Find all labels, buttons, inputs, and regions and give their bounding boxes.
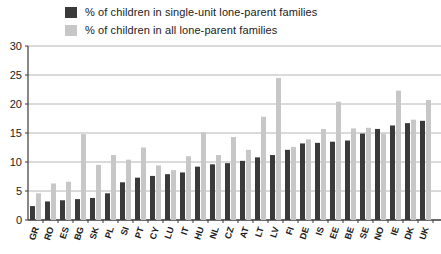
bar-single-unit-PL bbox=[105, 193, 110, 220]
x-axis-label-BE: BE bbox=[343, 226, 356, 241]
bar-all-PT bbox=[141, 148, 146, 221]
bar-all-SI bbox=[126, 160, 131, 220]
bar-single-unit-EE bbox=[330, 142, 335, 220]
x-axis-label-RO: RO bbox=[42, 226, 56, 242]
bar-all-AT bbox=[246, 150, 251, 220]
bar-single-unit-LU bbox=[165, 174, 170, 220]
x-axis-label-DK: DK bbox=[402, 225, 416, 241]
y-axis-label-20: 20 bbox=[10, 98, 22, 110]
legend-item-single-unit: % of children in single-unit lone-parent… bbox=[65, 5, 317, 19]
x-axis-label-SE: SE bbox=[358, 226, 371, 241]
bar-single-unit-RO bbox=[45, 201, 50, 220]
x-axis-label-IS: IS bbox=[314, 226, 326, 237]
bar-all-NO bbox=[381, 134, 386, 220]
bar-single-unit-ES bbox=[60, 200, 65, 220]
y-axis-label-0: 0 bbox=[16, 214, 22, 226]
legend-label-single-unit: % of children in single-unit lone-parent… bbox=[85, 6, 317, 18]
bar-all-SE bbox=[366, 128, 371, 220]
x-axis-label-NL: NL bbox=[208, 225, 221, 240]
bar-single-unit-CY bbox=[150, 176, 155, 220]
bar-single-unit-DE bbox=[300, 143, 305, 220]
bar-single-unit-IS bbox=[315, 143, 320, 220]
bar-all-SK bbox=[96, 165, 101, 220]
x-axis-label-LT: LT bbox=[253, 225, 266, 238]
y-axis-label-5: 5 bbox=[16, 185, 22, 197]
bar-single-unit-GR bbox=[30, 206, 35, 220]
x-axis-label-DE: DE bbox=[298, 226, 311, 241]
x-axis-label-CZ: CZ bbox=[223, 225, 236, 240]
bar-all-DK bbox=[411, 120, 416, 220]
y-axis-label-10: 10 bbox=[10, 156, 22, 168]
bar-all-GR bbox=[36, 193, 41, 220]
bar-single-unit-CZ bbox=[225, 163, 230, 220]
x-axis-label-GR: GR bbox=[27, 225, 41, 241]
bar-all-IT bbox=[186, 156, 191, 220]
bar-single-unit-IT bbox=[180, 172, 185, 220]
chart-figure: % of children in single-unit lone-parent… bbox=[0, 0, 441, 254]
legend-label-all: % of children in all lone-parent familie… bbox=[85, 24, 277, 36]
x-axis-label-PL: PL bbox=[103, 225, 116, 240]
bar-all-BE bbox=[351, 128, 356, 220]
bar-single-unit-PT bbox=[135, 178, 140, 220]
x-axis-label-HU: HU bbox=[192, 226, 206, 241]
bar-all-HU bbox=[201, 132, 206, 220]
bar-single-unit-AT bbox=[240, 161, 245, 220]
x-axis-label-AT: AT bbox=[238, 225, 251, 239]
bar-all-CY bbox=[156, 165, 161, 220]
bar-all-RO bbox=[51, 183, 56, 220]
bar-all-LV bbox=[276, 78, 281, 220]
bar-all-LU bbox=[171, 170, 176, 220]
bar-single-unit-IE bbox=[390, 125, 395, 220]
x-axis-label-CY: CY bbox=[148, 226, 161, 241]
bar-single-unit-SI bbox=[120, 182, 125, 220]
y-axis-label-15: 15 bbox=[10, 127, 22, 139]
chart-legend: % of children in single-unit lone-parent… bbox=[65, 5, 317, 41]
bar-all-LT bbox=[261, 117, 266, 220]
bar-single-unit-SK bbox=[90, 198, 95, 220]
y-axis-label-25: 25 bbox=[10, 69, 22, 81]
bar-all-EE bbox=[336, 102, 341, 220]
bar-all-IE bbox=[396, 91, 401, 220]
x-axis-label-SK: SK bbox=[88, 225, 102, 240]
bar-single-unit-BG bbox=[75, 199, 80, 220]
x-axis-label-LU: LU bbox=[163, 226, 176, 241]
x-axis-label-IE: IE bbox=[389, 226, 401, 237]
legend-item-all: % of children in all lone-parent familie… bbox=[65, 23, 317, 37]
bar-single-unit-LT bbox=[255, 157, 260, 220]
legend-swatch-single-unit-icon bbox=[65, 7, 77, 18]
bar-all-PL bbox=[111, 155, 116, 220]
bar-all-BG bbox=[81, 134, 86, 220]
bar-single-unit-LV bbox=[270, 155, 275, 220]
x-axis-label-FI: FI bbox=[284, 226, 296, 237]
bar-single-unit-UK bbox=[420, 121, 425, 220]
x-axis-label-ES: ES bbox=[58, 226, 71, 241]
bar-single-unit-NO bbox=[375, 129, 380, 220]
x-axis-label-NO: NO bbox=[372, 226, 386, 242]
bar-single-unit-SE bbox=[360, 134, 365, 220]
bar-single-unit-DK bbox=[405, 123, 410, 220]
x-axis-label-PT: PT bbox=[133, 225, 146, 240]
bar-all-NL bbox=[216, 155, 221, 220]
x-axis-label-SI: SI bbox=[119, 226, 131, 237]
bar-all-UK bbox=[426, 100, 431, 220]
x-axis-label-UK: UK bbox=[417, 225, 431, 241]
x-axis-label-BG: BG bbox=[72, 226, 86, 242]
x-axis-label-EE: EE bbox=[328, 226, 341, 241]
legend-swatch-all-icon bbox=[65, 25, 77, 36]
x-axis-label-IT: IT bbox=[179, 225, 191, 236]
bar-single-unit-FI bbox=[285, 150, 290, 220]
bar-all-FI bbox=[291, 147, 296, 220]
bar-all-DE bbox=[306, 139, 311, 220]
bar-single-unit-HU bbox=[195, 167, 200, 220]
bar-single-unit-NL bbox=[210, 164, 215, 220]
bar-all-IS bbox=[321, 129, 326, 220]
bar-all-ES bbox=[66, 182, 71, 220]
bar-all-CZ bbox=[231, 137, 236, 220]
x-axis-label-LV: LV bbox=[268, 226, 281, 239]
y-axis-label-30: 30 bbox=[10, 40, 22, 52]
bar-single-unit-BE bbox=[345, 141, 350, 220]
